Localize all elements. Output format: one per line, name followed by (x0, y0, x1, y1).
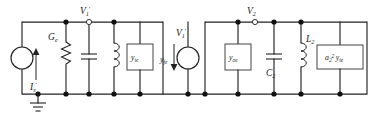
node-dot (86, 91, 91, 96)
inductor-l2-branch (301, 22, 306, 94)
node-v2-marker (252, 19, 257, 24)
node-dot (63, 91, 68, 96)
conductance-ge-branch (62, 22, 71, 94)
capacitor-c2-branch (266, 22, 282, 94)
conductance-ge-label: Ge (48, 32, 58, 43)
node-dot (271, 19, 276, 24)
node-dot (63, 19, 68, 24)
input-current-source-symbol (11, 47, 33, 69)
node-dot (185, 91, 190, 96)
node-dot (298, 19, 303, 24)
left-capacitor (81, 22, 97, 94)
node-dot (111, 91, 116, 96)
node-v1-prime-marker (86, 19, 91, 24)
node-dot (235, 19, 240, 24)
yfe-source-symbol (177, 47, 199, 69)
node-v2-label: V2 (247, 6, 256, 17)
node-dot (337, 91, 342, 96)
inductor-l2-label: L2 (305, 34, 314, 45)
circuit-diagram: Is' Ge yie (0, 0, 389, 120)
ground-symbol (30, 94, 46, 111)
input-current-arrow (33, 48, 40, 80)
node-dot (271, 91, 276, 96)
node-dot (202, 91, 207, 96)
yfe-control-voltage-label: V1' (176, 27, 186, 39)
left-inductor (114, 22, 119, 94)
node-dot (111, 19, 116, 24)
yfe-current-arrow (171, 44, 178, 71)
input-current-label: Is' (29, 81, 37, 93)
node-v1-prime-label: V1' (80, 5, 90, 17)
node-dot (137, 91, 142, 96)
node-dot (235, 91, 240, 96)
node-dot (298, 91, 303, 96)
